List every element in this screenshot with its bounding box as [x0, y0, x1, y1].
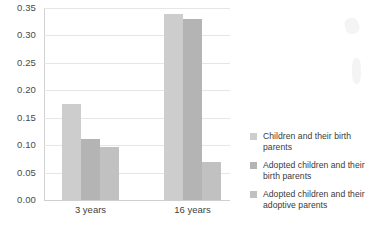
gridline: [44, 200, 230, 201]
chart-legend: Children and their birth parentsAdopted …: [250, 131, 366, 219]
bar: [164, 14, 183, 201]
y-axis-tick-label: 0.15: [17, 113, 36, 123]
bar-group: [164, 8, 221, 200]
legend-item-label: Adopted children and their adoptive pare…: [263, 189, 366, 210]
y-axis-tick-label: 0.20: [17, 86, 36, 96]
bar-group: [62, 8, 119, 200]
y-axis-tick-label: 0.00: [17, 195, 36, 205]
x-axis: 3 years16 years: [44, 202, 230, 220]
bar: [100, 147, 119, 200]
bars-layer: [44, 8, 230, 200]
legend-item-label: Adopted children and their birth parents: [263, 160, 366, 181]
bar-chart: 0.350.300.250.200.150.100.050.00 3 years…: [0, 0, 366, 232]
y-axis-tick-label: 0.30: [17, 31, 36, 41]
x-axis-tick-label: 16 years: [174, 205, 210, 215]
y-axis: 0.350.300.250.200.150.100.050.00: [0, 8, 40, 200]
y-axis-tick-label: 0.35: [17, 3, 36, 13]
x-axis-tick-label: 3 years: [75, 205, 106, 215]
bar: [81, 139, 100, 200]
y-axis-tick-label: 0.10: [17, 140, 36, 150]
scan-artifact: [343, 16, 361, 36]
legend-item-label: Children and their birth parents: [263, 131, 366, 152]
bar: [202, 162, 221, 200]
y-axis-tick-label: 0.25: [17, 58, 36, 68]
legend-swatch-icon: [250, 191, 257, 198]
legend-swatch-icon: [250, 133, 257, 140]
bar: [62, 104, 81, 200]
legend-item: Adopted children and their birth parents: [250, 160, 366, 181]
legend-swatch-icon: [250, 162, 257, 169]
plot-area: [44, 8, 230, 200]
bar: [183, 19, 202, 200]
y-axis-tick-label: 0.05: [17, 168, 36, 178]
scan-artifact: [352, 58, 361, 84]
legend-item: Adopted children and their adoptive pare…: [250, 189, 366, 210]
legend-item: Children and their birth parents: [250, 131, 366, 152]
